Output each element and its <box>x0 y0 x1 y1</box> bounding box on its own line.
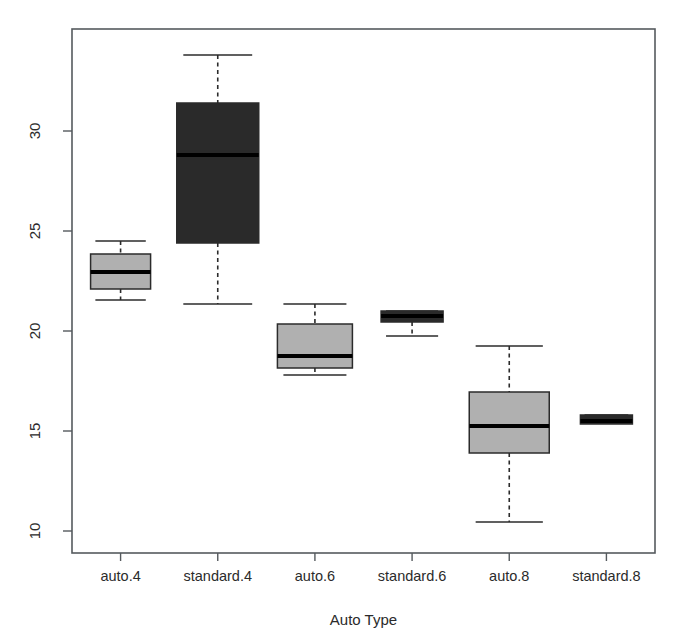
x-tick-label-auto.4: auto.4 <box>100 568 140 584</box>
box-body-auto.8 <box>469 392 549 453</box>
box-group-auto.4 <box>91 241 151 300</box>
box-group-standard.6 <box>381 311 443 336</box>
box-group-auto.8 <box>469 346 549 522</box>
y-tick-label-20: 20 <box>26 323 43 340</box>
y-tick-label-30: 30 <box>26 123 43 140</box>
x-tick-label-auto.6: auto.6 <box>295 568 335 584</box>
y-tick-label-25: 25 <box>26 223 43 240</box>
boxes-group <box>91 55 633 522</box>
box-group-standard.4 <box>177 55 259 304</box>
box-group-standard.8 <box>580 415 632 424</box>
boxplot-figure: 1015202530auto.4standard.4auto.6standard… <box>0 0 675 642</box>
box-group-auto.6 <box>277 304 352 375</box>
boxplot-canvas: 1015202530auto.4standard.4auto.6standard… <box>0 0 675 642</box>
y-tick-label-15: 15 <box>26 423 43 440</box>
axes-group <box>63 29 655 561</box>
x-axis-title: Auto Type <box>330 611 397 628</box>
box-body-standard.4 <box>177 103 259 243</box>
x-tick-label-standard.8: standard.8 <box>572 568 641 584</box>
plot-frame <box>72 29 655 553</box>
x-tick-label-standard.4: standard.4 <box>183 568 252 584</box>
y-tick-label-10: 10 <box>26 523 43 540</box>
box-body-auto.6 <box>277 324 352 368</box>
x-tick-label-auto.8: auto.8 <box>489 568 529 584</box>
x-tick-label-standard.6: standard.6 <box>378 568 447 584</box>
